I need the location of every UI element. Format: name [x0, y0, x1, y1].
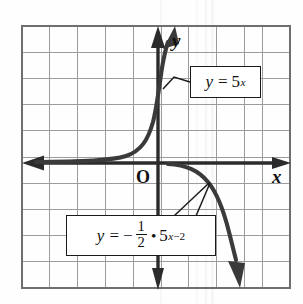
equation-lhs: y [97, 226, 106, 246]
multiplication-dot: • [148, 227, 159, 245]
page-background [0, 0, 303, 304]
equation-exponential: y = 5 x [205, 72, 245, 92]
base-value: 5 [159, 226, 168, 246]
y-axis-label: y [170, 30, 181, 51]
fraction-one-half: 1 2 [136, 219, 147, 250]
label-transformed-equation: y = − 1 2 • 5 x−2 [66, 215, 216, 256]
exponent-expression: x−2 [168, 230, 185, 242]
negative-sign: − [123, 226, 135, 246]
figure-page: y x O y = 5 x y = − 1 2 • 5 x−2 [0, 0, 303, 304]
equals-sign: = [214, 72, 232, 92]
equals-sign: = [105, 226, 123, 246]
exponent-value: x [240, 76, 245, 88]
label-exponential-equation: y = 5 x [190, 66, 261, 98]
fraction-numerator: 1 [136, 219, 147, 234]
equation-transformed: y = − 1 2 • 5 x−2 [97, 220, 185, 251]
exponent-constant: 2 [180, 230, 186, 242]
base-value: 5 [232, 72, 241, 92]
fraction-denominator: 2 [136, 234, 147, 250]
equation-lhs: y [205, 72, 214, 92]
origin-label: O [136, 167, 150, 187]
x-axis-label: x [271, 166, 282, 187]
graph-canvas: y x O [0, 0, 303, 304]
